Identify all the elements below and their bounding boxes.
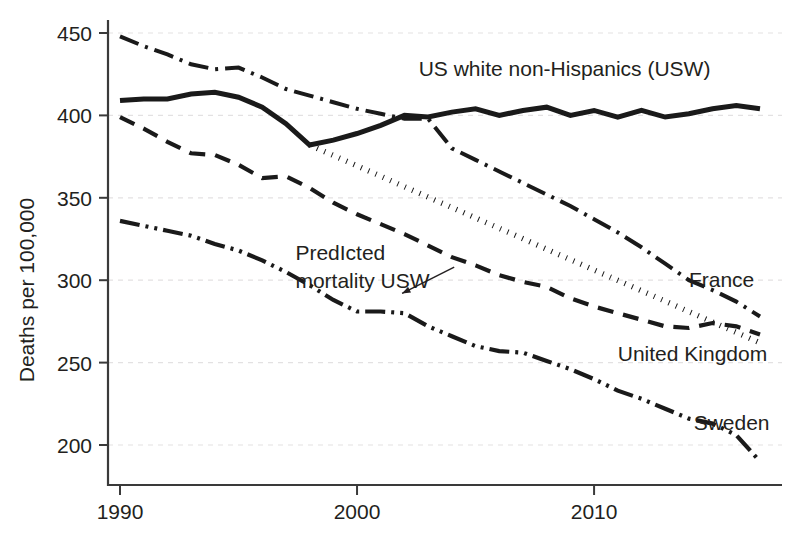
chart-figure: 200250300350400450199020002010Deaths per… — [0, 0, 789, 538]
xtick-label-1990: 1990 — [97, 500, 144, 523]
annotations: PredIctedmortality USW — [295, 241, 454, 293]
ytick-label-250: 250 — [57, 352, 92, 375]
series-label-us-white-non-hispanics-usw: US white non-Hispanics (USW) — [419, 57, 711, 80]
ytick-label-200: 200 — [57, 434, 92, 457]
y-axis-title: Deaths per 100,000 — [15, 198, 38, 382]
ytick-label-350: 350 — [57, 187, 92, 210]
series-line-us-white-non-hispanics-usw — [120, 92, 760, 145]
series-group — [120, 36, 760, 461]
series-labels: US white non-Hispanics (USW)FranceUnited… — [419, 57, 770, 434]
xtick-label-2000: 2000 — [334, 500, 381, 523]
series-line-united-kingdom — [120, 117, 760, 335]
series-label-united-kingdom: United Kingdom — [618, 342, 767, 365]
series-label-sweden: Sweden — [694, 411, 770, 434]
ytick-label-300: 300 — [57, 269, 92, 292]
ytick-label-450: 450 — [57, 22, 92, 45]
xtick-label-2010: 2010 — [571, 500, 618, 523]
mortality-line-chart: 200250300350400450199020002010Deaths per… — [0, 0, 789, 538]
ytick-label-400: 400 — [57, 104, 92, 127]
predicted-mortality-annotation-line1: PredIcted — [295, 241, 385, 264]
series-label-france: France — [689, 268, 754, 291]
